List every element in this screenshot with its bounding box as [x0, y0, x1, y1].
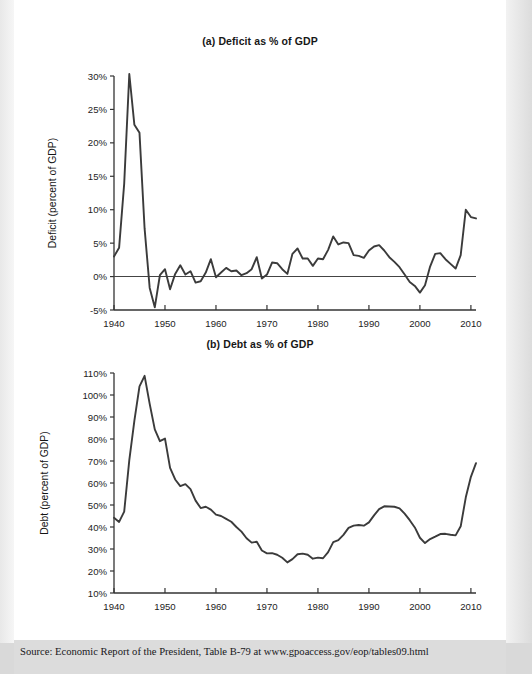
- y-tick-label: 15%: [88, 171, 108, 182]
- chart-panel-deficit: (a) Deficit as % of GDP -5%0%5%10%15%20%…: [14, 34, 506, 334]
- y-tick-label: 110%: [83, 368, 107, 379]
- plot-area-debt: 10%20%30%40%50%60%70%80%90%100%110%19401…: [14, 351, 506, 623]
- deficit-chart-svg: -5%0%5%10%15%20%25%30%194019501960197019…: [14, 48, 506, 330]
- y-tick-label: 25%: [88, 104, 108, 115]
- plot-area-deficit: -5%0%5%10%15%20%25%30%194019501960197019…: [14, 48, 506, 330]
- y-tick-label: 40%: [88, 522, 108, 533]
- x-tick-label: 1950: [154, 601, 175, 612]
- y-tick-label: 20%: [88, 137, 108, 148]
- x-tick-label: 1980: [307, 318, 328, 329]
- x-tick-label: 1970: [256, 601, 277, 612]
- y-tick-label: 90%: [88, 412, 108, 423]
- data-series-line: [114, 376, 476, 563]
- x-tick-label: 2010: [460, 601, 481, 612]
- data-series-line: [114, 74, 476, 307]
- y-tick-label: 10%: [88, 588, 108, 599]
- x-tick-label: 1990: [358, 318, 379, 329]
- x-tick-label: 2000: [409, 601, 430, 612]
- chart-panel-debt: (b) Debt as % of GDP 10%20%30%40%50%60%7…: [14, 337, 506, 627]
- x-tick-label: 1970: [256, 318, 277, 329]
- y-tick-label: 70%: [88, 456, 108, 467]
- y-tick-label: -5%: [90, 305, 108, 316]
- y-tick-label: 0%: [93, 271, 107, 282]
- x-tick-label: 1960: [205, 601, 226, 612]
- y-tick-label: 30%: [88, 71, 108, 82]
- page-gutter-left: [0, 0, 14, 643]
- y-tick-label: 20%: [88, 566, 108, 577]
- x-tick-label: 2010: [460, 318, 481, 329]
- y-tick-label: 80%: [88, 434, 108, 445]
- x-tick-label: 2000: [409, 318, 430, 329]
- chart-title-deficit: (a) Deficit as % of GDP: [14, 34, 506, 48]
- figure-page: (a) Deficit as % of GDP -5%0%5%10%15%20%…: [14, 0, 506, 643]
- x-tick-label: 1940: [103, 318, 124, 329]
- debt-chart-svg: 10%20%30%40%50%60%70%80%90%100%110%19401…: [14, 351, 506, 623]
- y-tick-label: 60%: [88, 478, 108, 489]
- chart-title-debt: (b) Debt as % of GDP: [14, 337, 506, 351]
- x-tick-label: 1940: [103, 601, 124, 612]
- y-tick-label: 50%: [88, 500, 108, 511]
- source-note: Source: Economic Report of the President…: [20, 646, 520, 657]
- y-axis-label: Debt (percent of GDP): [39, 431, 50, 534]
- y-tick-label: 10%: [88, 204, 108, 215]
- y-tick-label: 30%: [88, 544, 108, 555]
- x-tick-label: 1980: [307, 601, 328, 612]
- page-gutter-right: [506, 0, 532, 643]
- y-axis-label: Deficit (percent of GDP): [47, 138, 58, 248]
- x-tick-label: 1960: [205, 318, 226, 329]
- y-tick-label: 100%: [82, 390, 107, 401]
- x-tick-label: 1990: [358, 601, 379, 612]
- x-tick-label: 1950: [154, 318, 175, 329]
- y-tick-label: 5%: [93, 238, 107, 249]
